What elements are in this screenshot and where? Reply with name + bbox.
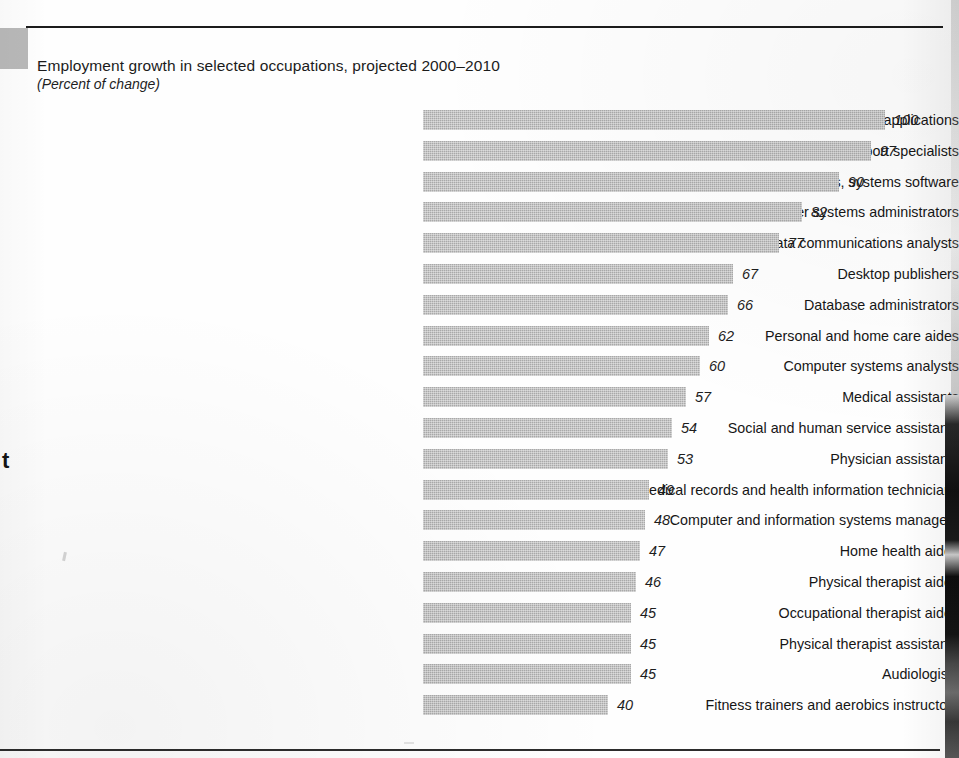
chart-row: Network and computer systems administrat…: [0, 200, 959, 224]
bar: [423, 449, 668, 469]
bar-fill: [423, 326, 709, 346]
scan-artifact-glyph: t: [2, 450, 9, 472]
bar: [423, 510, 645, 530]
chart-subtitle: (Percent of change): [37, 76, 160, 92]
bar: [423, 295, 728, 315]
bar-fill: [423, 172, 839, 192]
bar-value-label: 82: [811, 200, 827, 224]
bar-chart: Computer software engineers, application…: [0, 108, 959, 738]
bottom-rule: [0, 749, 940, 751]
bar-value-label: 60: [709, 354, 725, 378]
bar-value-label: 54: [681, 416, 697, 440]
bar-value-label: 62: [718, 324, 734, 348]
chart-row: Computer systems analysts60: [0, 354, 959, 378]
bar: [423, 603, 631, 623]
bar-fill: [423, 295, 728, 315]
chart-title: Employment growth in selected occupation…: [37, 57, 500, 75]
bar-value-label: 45: [640, 662, 656, 686]
chart-row: Computer software engineers, systems sof…: [0, 170, 959, 194]
chart-row: Computer software engineers, application…: [0, 108, 959, 132]
chart-row: Physical therapist assistants45: [0, 632, 959, 656]
chart-row: Personal and home care aides62: [0, 324, 959, 348]
bar-fill: [423, 541, 640, 561]
chart-row: Physical therapist aides46: [0, 570, 959, 594]
bar-value-label: 67: [742, 262, 758, 286]
chart-row: Physician assistants53: [0, 447, 959, 471]
bar-value-label: 97: [880, 139, 896, 163]
bar-value-label: 49: [658, 478, 674, 502]
bar-fill: [423, 110, 885, 130]
bar: [423, 541, 640, 561]
scan-edge-shadow-upper: [951, 0, 959, 396]
chart-row: Desktop publishers67: [0, 262, 959, 286]
chart-row: Home health aides47: [0, 539, 959, 563]
bar-fill: [423, 418, 672, 438]
bar-value-label: 47: [649, 539, 665, 563]
bar: [423, 387, 686, 407]
bar-value-label: 77: [788, 231, 804, 255]
chart-row: Social and human service assistants54: [0, 416, 959, 440]
bar-fill: [423, 510, 645, 530]
bar-fill: [423, 202, 802, 222]
chart-row: Audiologists45: [0, 662, 959, 686]
bar: [423, 480, 649, 500]
bar-fill: [423, 603, 631, 623]
bar: [423, 634, 631, 654]
bar: [423, 202, 802, 222]
bar-value-label: 45: [640, 632, 656, 656]
bar-fill: [423, 695, 608, 715]
bar: [423, 326, 709, 346]
bar-value-label: 45: [640, 601, 656, 625]
chart-row: Network systems and data communications …: [0, 231, 959, 255]
bar-fill: [423, 449, 668, 469]
chart-row: Medical assistants57: [0, 385, 959, 409]
bar-fill: [423, 664, 631, 684]
chart-row: Occupational therapist aides45: [0, 601, 959, 625]
bar-value-label: 46: [645, 570, 661, 594]
bar-value-label: 48: [654, 508, 670, 532]
bar-fill: [423, 356, 700, 376]
top-rule: [26, 26, 943, 28]
corner-gray-block: [0, 28, 28, 69]
bar-value-label: 100: [894, 108, 918, 132]
bar-fill: [423, 634, 631, 654]
bar-fill: [423, 480, 649, 500]
bar-value-label: 53: [677, 447, 693, 471]
bar: [423, 418, 672, 438]
bar-fill: [423, 387, 686, 407]
bar: [423, 110, 885, 130]
bar: [423, 172, 839, 192]
bar: [423, 572, 636, 592]
bar-fill: [423, 141, 871, 161]
chart-row: Medical records and health information t…: [0, 478, 959, 502]
bar-fill: [423, 572, 636, 592]
chart-row: Computer support specialists97: [0, 139, 959, 163]
bar-fill: [423, 233, 779, 253]
scanned-page: Employment growth in selected occupation…: [0, 0, 959, 758]
bar: [423, 664, 631, 684]
bar: [423, 356, 700, 376]
chart-row: Database administrators66: [0, 293, 959, 317]
bar: [423, 141, 871, 161]
scan-edge-shadow-lower: [945, 395, 959, 758]
bar: [423, 695, 608, 715]
bar-value-label: 66: [737, 293, 753, 317]
bar: [423, 264, 733, 284]
bar-value-label: 90: [848, 170, 864, 194]
bar-fill: [423, 264, 733, 284]
chart-row: Computer and information systems manager…: [0, 508, 959, 532]
bar-value-label: 57: [695, 385, 711, 409]
scan-speck: [404, 742, 414, 744]
bar-value-label: 40: [617, 693, 633, 717]
bar: [423, 233, 779, 253]
chart-row: Fitness trainers and aerobics instructor…: [0, 693, 959, 717]
